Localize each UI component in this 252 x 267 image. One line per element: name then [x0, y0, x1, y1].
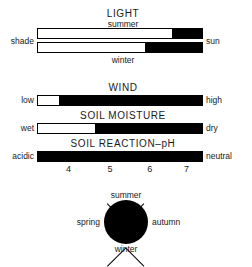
season-label-spring: spring [77, 217, 100, 227]
soil-moisture-bar [37, 123, 203, 134]
ph-axis: 4 5 6 7 [37, 164, 203, 178]
light-summer-bar [37, 28, 203, 39]
wind-section-title: WIND [108, 82, 137, 93]
season-label-winter: winter [115, 244, 138, 254]
ph-tick-4: 4 [66, 164, 71, 174]
soil-reaction-bar [37, 151, 203, 162]
season-wheel: summer spring autumn winter [96, 192, 156, 252]
wind-bar [37, 95, 203, 106]
soil-reaction-left-label: acidic [12, 151, 34, 161]
light-winter-bar-fill [145, 43, 202, 52]
ph-tick-5: 5 [108, 164, 113, 174]
light-right-label: sun [206, 36, 220, 46]
soil-reaction-section-title: SOIL REACTION–pH [71, 138, 176, 149]
light-winter-caption: winter [112, 55, 135, 65]
soil-reaction-right-label: neutral [206, 151, 232, 161]
soil-moisture-right-label: dry [206, 123, 218, 133]
soil-moisture-left-label: wet [21, 123, 34, 133]
ph-tick-6: 6 [147, 164, 152, 174]
wind-left-label: low [21, 95, 34, 105]
season-label-summer: summer [111, 190, 142, 200]
season-disc [104, 200, 148, 244]
season-label-autumn: autumn [152, 217, 180, 227]
light-summer-bar-fill [172, 29, 202, 38]
soil-moisture-section-title: SOIL MOISTURE [80, 110, 166, 121]
ph-tick-7: 7 [184, 164, 189, 174]
soil-reaction-bar-fill [38, 152, 202, 161]
light-winter-bar [37, 42, 203, 53]
light-left-label: shade [11, 36, 34, 46]
wind-right-label: high [206, 95, 222, 105]
wind-bar-fill [59, 96, 202, 105]
soil-moisture-bar-fill [95, 124, 202, 133]
light-section-title: LIGHT [107, 8, 139, 19]
